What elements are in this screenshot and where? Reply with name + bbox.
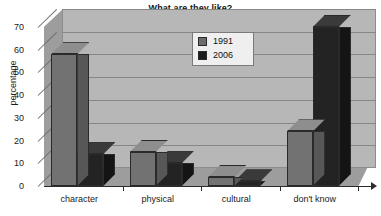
bar-front-face: [287, 131, 313, 186]
y-tick-label: 60: [4, 46, 24, 55]
bar-front-face: [234, 181, 260, 186]
y-tick-label: 0: [4, 182, 24, 191]
x-tick-label-character: character: [40, 194, 119, 204]
x-axis-line: [44, 186, 374, 187]
x-axis-arrow-icon: [371, 182, 377, 190]
bar-cultural-1991[interactable]: [208, 177, 234, 186]
bar-side-face: [77, 54, 89, 186]
bar-dontknow-1991[interactable]: [287, 131, 313, 186]
y-tick-label: 70: [4, 23, 24, 32]
y-axis-title: percentage: [8, 48, 18, 118]
bar-front-face: [51, 54, 77, 186]
x-axis-tick: [358, 187, 359, 191]
bar-chart: What are they like? percentage 010203040…: [0, 0, 381, 216]
x-tick-label-dontknow: don't know: [276, 194, 355, 204]
y-tick-label: 40: [4, 91, 24, 100]
legend-label-1991: 1991: [213, 37, 233, 46]
bar-side-face: [339, 27, 351, 186]
bar-character-1991[interactable]: [51, 54, 77, 186]
y-tick-label: 10: [4, 159, 24, 168]
y-tick-label: 30: [4, 114, 24, 123]
x-axis-tick: [280, 187, 281, 191]
x-axis-tick: [123, 187, 124, 191]
legend-item-2006[interactable]: 2006: [198, 51, 248, 60]
x-tick-label-physical: physical: [119, 194, 198, 204]
x-axis-tick: [201, 187, 202, 191]
legend-swatch-icon-1991: [198, 37, 207, 46]
bar-physical-1991[interactable]: [130, 152, 156, 186]
legend: 1991 2006: [192, 32, 254, 66]
bar-cultural-2006[interactable]: [234, 181, 260, 186]
y-tick-label: 20: [4, 137, 24, 146]
legend-label-2006: 2006: [213, 51, 233, 60]
bar-front-face: [130, 152, 156, 186]
legend-item-1991[interactable]: 1991: [198, 37, 248, 46]
legend-swatch-icon-2006: [198, 51, 207, 60]
bar-front-face: [208, 177, 234, 186]
y-tick-label: 50: [4, 68, 24, 77]
x-tick-label-cultural: cultural: [197, 194, 276, 204]
gridline: [62, 9, 376, 10]
